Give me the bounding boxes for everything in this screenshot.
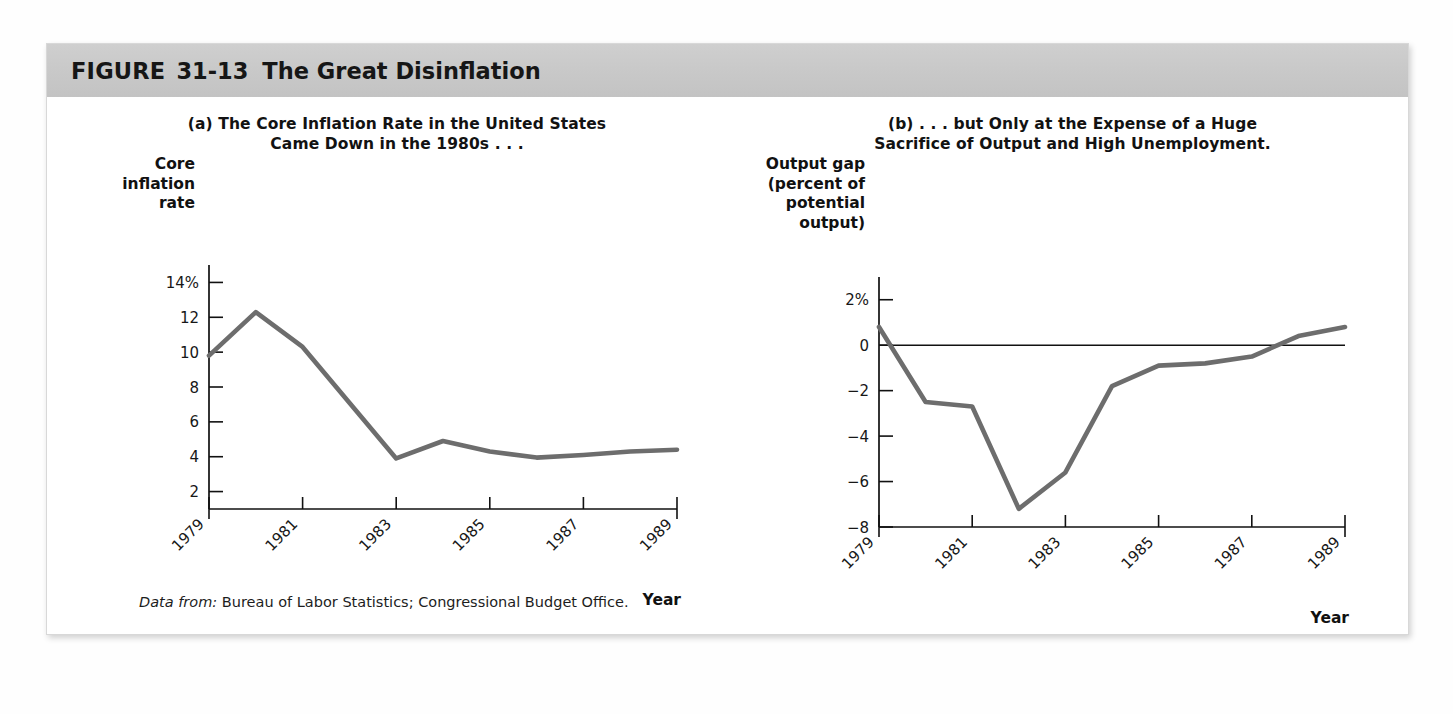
y-tick-label: 2%	[845, 291, 869, 309]
figure-header: FIGURE 31-13 The Great Disinflation	[47, 44, 1408, 97]
y-axis-title-line: (percent of	[768, 174, 866, 192]
panel-b-title: (b) . . . but Only at the Expense of a H…	[737, 114, 1408, 155]
y-tick-label: 4	[189, 448, 199, 466]
x-tick-label: 1981	[262, 515, 302, 555]
source-note-lead: Data from:	[139, 594, 217, 610]
panel-a-title-line2: Came Down in the 1980s . . .	[47, 134, 747, 154]
data-series-line	[209, 312, 677, 458]
y-axis-title: Coreinflationrate	[122, 155, 195, 212]
x-tick-label: 1989	[1304, 533, 1344, 573]
panel-b-plot: Output gap(percent ofpotentialoutput)2%0…	[737, 265, 1408, 705]
panel-b-title-line2: Sacrifice of Output and High Unemploymen…	[737, 134, 1408, 154]
y-tick-label: 2	[189, 483, 199, 501]
x-tick-label: 1989	[636, 515, 676, 555]
y-tick-label: 10	[180, 344, 199, 362]
figure-label: FIGURE	[71, 58, 165, 84]
y-axis-title-line: output)	[799, 213, 865, 231]
y-tick-label: 8	[189, 378, 199, 396]
x-tick-label: 1985	[1118, 533, 1158, 573]
figure-body: (a) The Core Inflation Rate in the Unite…	[47, 97, 1408, 634]
x-axis-title: Year	[1310, 609, 1350, 627]
y-axis-title-line: potential	[786, 194, 865, 212]
x-tick-label: 1985	[449, 515, 489, 555]
panel-a-chart: Coreinflationrate14%12108642197919811983…	[47, 241, 747, 681]
y-axis-title-line: inflation	[122, 174, 195, 192]
figure-title: The Great Disinflation	[262, 58, 540, 84]
y-tick-label: 6	[189, 413, 199, 431]
y-axis-title-line: Output gap	[766, 155, 865, 173]
data-series-line	[879, 327, 1345, 509]
y-axis-title: Output gap(percent ofpotentialoutput)	[766, 155, 865, 232]
x-tick-label: 1983	[1024, 533, 1064, 573]
y-tick-label: 14%	[166, 274, 199, 292]
panel-b: (b) . . . but Only at the Expense of a H…	[737, 97, 1408, 705]
x-tick-label: 1987	[542, 515, 582, 555]
panel-b-chart: Output gap(percent ofpotentialoutput)2%0…	[737, 265, 1408, 705]
y-tick-label: −6	[847, 473, 869, 491]
x-tick-label: 1979	[168, 515, 208, 555]
source-note: Data from: Bureau of Labor Statistics; C…	[139, 594, 629, 610]
x-tick-label: 1987	[1211, 533, 1251, 573]
x-tick-label: 1981	[931, 533, 971, 573]
y-tick-label: 12	[180, 309, 199, 327]
panel-a-title: (a) The Core Inflation Rate in the Unite…	[47, 114, 747, 155]
panel-a-title-line1: (a) The Core Inflation Rate in the Unite…	[188, 115, 606, 133]
y-tick-label: −2	[847, 382, 869, 400]
y-tick-label: −4	[847, 427, 869, 445]
figure-box: FIGURE 31-13 The Great Disinflation (a) …	[46, 43, 1409, 635]
x-tick-label: 1979	[838, 533, 878, 573]
figure-page: FIGURE 31-13 The Great Disinflation (a) …	[0, 0, 1453, 714]
figure-number: 31-13	[176, 58, 248, 84]
x-tick-label: 1983	[355, 515, 395, 555]
y-axis-title-line: rate	[159, 194, 195, 212]
y-tick-label: 0	[859, 337, 869, 355]
y-axis-title-line: Core	[155, 155, 195, 173]
panel-a-plot: Coreinflationrate14%12108642197919811983…	[47, 241, 747, 681]
source-note-body: Bureau of Labor Statistics; Congressiona…	[222, 594, 629, 610]
panel-b-title-line1: (b) . . . but Only at the Expense of a H…	[888, 115, 1257, 133]
x-axis-title: Year	[642, 591, 682, 609]
